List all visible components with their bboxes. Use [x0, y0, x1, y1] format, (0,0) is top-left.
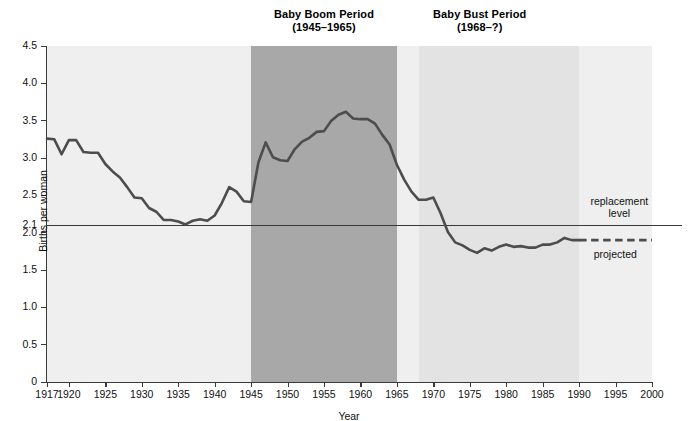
- actual-fertility-line: [47, 112, 579, 253]
- x-axis-tick: [105, 382, 106, 387]
- x-axis-tick: [616, 382, 617, 387]
- y-axis-tick-label: 2.5: [22, 188, 37, 200]
- x-axis-tick: [288, 382, 289, 387]
- x-axis-tick-label: 1975: [450, 388, 490, 400]
- replacement-level-line1: replacement: [590, 195, 648, 207]
- x-axis-tick-label: 1960: [340, 388, 380, 400]
- x-axis-tick: [360, 382, 361, 387]
- baby-boom-period-label: Baby Boom Period: [274, 8, 374, 20]
- x-axis-tick-label: 1995: [596, 388, 636, 400]
- baby-bust-period-years: (1968–?): [405, 21, 555, 34]
- x-axis-tick: [47, 382, 48, 387]
- y-axis-tick-label: 4.0: [22, 76, 37, 88]
- x-axis-tick: [178, 382, 179, 387]
- replacement-level-line2: level: [608, 207, 630, 219]
- y-axis-tick-label: 3.5: [22, 114, 37, 126]
- y-axis-tick-label: 2.1: [22, 218, 37, 230]
- x-axis-tick: [433, 382, 434, 387]
- y-axis-title: Births per woman: [37, 170, 49, 252]
- x-axis-tick-label: 1935: [158, 388, 198, 400]
- x-axis-tick-label: 1930: [122, 388, 162, 400]
- y-axis-tick-label: 4.5: [22, 39, 37, 51]
- x-axis-tick-label: 1925: [85, 388, 125, 400]
- y-axis-tick-label: 0: [31, 375, 37, 387]
- y-axis-tick-label: 1.0: [22, 300, 37, 312]
- x-axis-tick-label: 1920: [49, 388, 89, 400]
- y-axis-tick-label: 1.5: [22, 263, 37, 275]
- x-axis-tick: [506, 382, 507, 387]
- y-axis-tick-label: 0.5: [22, 338, 37, 350]
- x-axis-tick: [324, 382, 325, 387]
- x-axis-tick: [652, 382, 653, 387]
- replacement-level-annotation: replacement level: [590, 195, 648, 219]
- chart-figure: Baby Boom Period (1945–1965) Baby Bust P…: [0, 0, 688, 421]
- x-axis-tick-label: 2000: [632, 388, 672, 400]
- plot-area: Births per woman Year: [47, 46, 652, 382]
- x-axis-tick: [142, 382, 143, 387]
- x-axis-tick-label: 1940: [195, 388, 235, 400]
- baby-bust-period-title: Baby Bust Period (1968–?): [405, 8, 555, 34]
- baby-boom-period-title: Baby Boom Period (1945–1965): [251, 8, 397, 34]
- x-axis-tick-label: 1980: [486, 388, 526, 400]
- x-axis-tick: [69, 382, 70, 387]
- x-axis-tick-label: 1945: [231, 388, 271, 400]
- projected-annotation: projected: [594, 248, 637, 260]
- x-axis-tick: [251, 382, 252, 387]
- x-axis-tick: [397, 382, 398, 387]
- x-axis-tick-label: 1990: [559, 388, 599, 400]
- x-axis-tick-label: 1985: [523, 388, 563, 400]
- x-axis-tick: [470, 382, 471, 387]
- x-axis-tick-label: 1965: [377, 388, 417, 400]
- x-axis-title: Year: [338, 410, 359, 421]
- x-axis-tick-label: 1955: [304, 388, 344, 400]
- fertility-rate-series: [47, 46, 652, 382]
- x-axis-tick-label: 1950: [268, 388, 308, 400]
- baby-bust-period-label: Baby Bust Period: [433, 8, 526, 20]
- x-axis-tick: [579, 382, 580, 387]
- y-axis-tick-label: 3.0: [22, 151, 37, 163]
- x-axis-tick-label: 1970: [413, 388, 453, 400]
- x-axis-tick: [543, 382, 544, 387]
- baby-boom-period-years: (1945–1965): [251, 21, 397, 34]
- x-axis-tick: [215, 382, 216, 387]
